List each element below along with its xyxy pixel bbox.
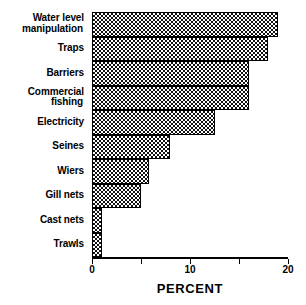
category-label: Wiers [0,166,84,177]
category-label: Gill nets [0,190,84,201]
x-tick [141,259,142,264]
bar-row [92,135,288,160]
category-axis-labels: Water levelmanipulationTrapsBarriersComm… [0,12,84,257]
bar [92,37,268,62]
bar-row [92,159,288,184]
category-label: Trawls [0,239,84,250]
category-label: Seines [0,141,84,152]
bar-row [92,110,288,135]
bar [92,135,170,160]
bar [92,86,249,111]
bar-row [92,184,288,209]
bar [92,61,249,86]
bar [92,233,102,258]
bar-row [92,208,288,233]
bar [92,184,141,209]
bar-row [92,233,288,258]
bar [92,208,102,233]
bar [92,12,278,37]
x-tick-label: 10 [175,264,205,275]
bar-row [92,12,288,37]
plot-area [92,12,288,257]
bar-row [92,86,288,111]
bar-row [92,37,288,62]
bar [92,110,215,135]
category-label: Cast nets [0,215,84,226]
category-label: Traps [0,43,84,54]
category-label: Commercialfishing [0,87,84,108]
bar-row [92,61,288,86]
category-label: Water levelmanipulation [0,13,84,34]
category-label: Electricity [0,117,84,128]
bar-chart: Water levelmanipulationTrapsBarriersComm… [0,0,306,305]
x-axis-title: PERCENT [92,281,288,296]
x-tick-label: 0 [77,264,107,275]
bar [92,159,149,184]
category-label: Barriers [0,68,84,79]
x-tick [239,259,240,264]
x-tick-label: 20 [273,264,303,275]
